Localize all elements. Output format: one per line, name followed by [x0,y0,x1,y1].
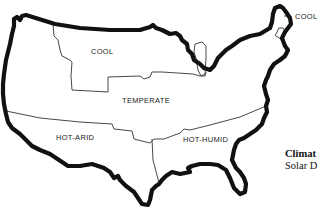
region-label-temperate: TEMPERATE [122,96,170,105]
region-label-cool-northeast: COOL [295,12,317,21]
us-climate-zone-map [0,0,322,214]
us-outline [3,6,291,205]
region-label-cool-north: COOL [91,47,113,56]
arid-humid-divider [152,139,159,183]
cool-south-boundary [72,72,206,92]
region-label-hot-humid: HOT-HUMID [183,135,228,144]
figure-caption-title: Climat [285,148,316,159]
cool-west-boundary [53,24,72,90]
figure-caption-subtitle: Solar D [285,160,317,171]
region-label-hot-arid: HOT-ARID [56,133,94,142]
